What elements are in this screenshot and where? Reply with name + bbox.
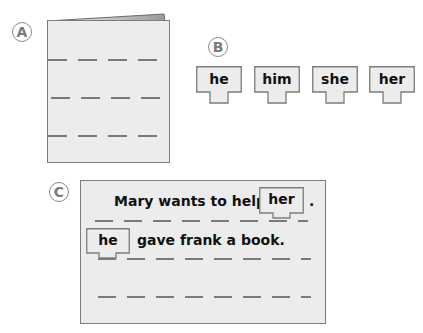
label-c-text: C bbox=[54, 184, 64, 200]
placed-tag-label: her bbox=[259, 191, 304, 207]
sentence-writing-line-1 bbox=[95, 220, 308, 222]
label-a-badge: A bbox=[12, 22, 32, 42]
word-tag-label: she bbox=[312, 71, 358, 87]
label-b-text: B bbox=[213, 39, 224, 55]
booklet-writing-line-3 bbox=[48, 135, 157, 137]
placed-tag-he[interactable]: he bbox=[86, 228, 130, 261]
label-b-badge: B bbox=[208, 37, 228, 57]
word-tag-label: him bbox=[254, 71, 300, 87]
word-tag-label: her bbox=[369, 71, 415, 87]
sentence-line-1-period: . bbox=[309, 193, 314, 209]
placed-tag-label: he bbox=[86, 232, 130, 248]
word-tag-he[interactable]: he bbox=[196, 66, 242, 104]
sentence-writing-line-3 bbox=[98, 296, 311, 298]
sentence-line-1-text: Mary wants to help bbox=[114, 193, 266, 209]
word-tag-she[interactable]: she bbox=[312, 66, 358, 104]
cropped-top-text bbox=[0, 0, 423, 4]
word-tag-him[interactable]: him bbox=[254, 66, 300, 104]
word-tag-her[interactable]: her bbox=[369, 66, 415, 104]
booklet-writing-line-2 bbox=[51, 97, 160, 99]
placed-tag-her[interactable]: her bbox=[259, 187, 304, 220]
word-tag-label: he bbox=[196, 71, 242, 87]
booklet-writing-line-1 bbox=[48, 59, 157, 61]
label-a-text: A bbox=[17, 24, 28, 40]
sentence-line-2-text: gave frank a book. bbox=[137, 232, 285, 248]
label-c-badge: C bbox=[49, 182, 69, 202]
blank-booklet bbox=[47, 20, 170, 163]
